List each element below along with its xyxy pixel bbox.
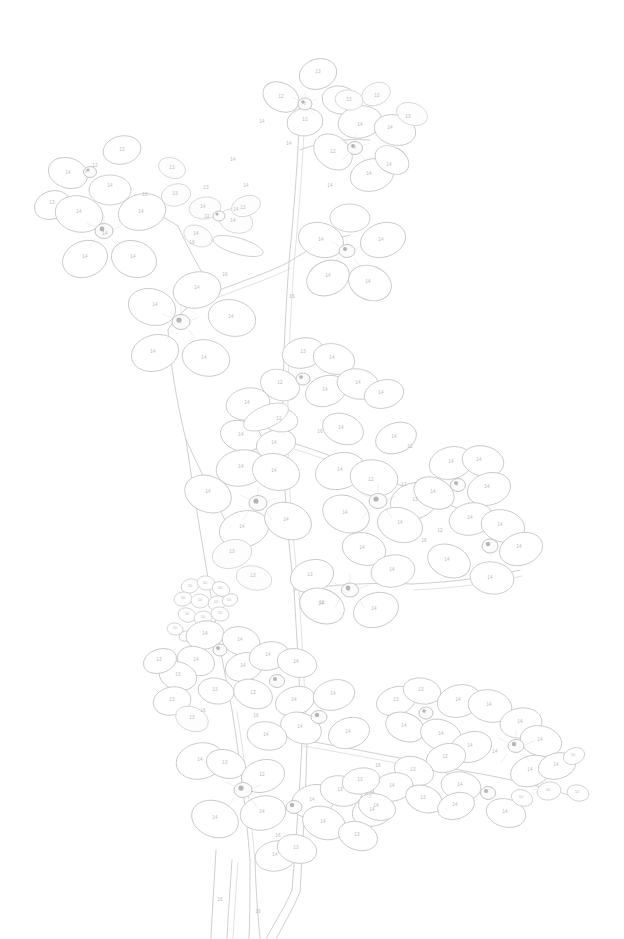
region-number: 14 (283, 517, 289, 522)
region-number: 13 (203, 185, 209, 190)
region-number: 14 (327, 183, 333, 188)
region-number: 10 (181, 595, 186, 600)
region-number: 13 (300, 349, 306, 354)
region-number: 14 (138, 209, 144, 214)
region-number: 16 (222, 272, 228, 277)
region-number: 16 (375, 763, 381, 768)
region-number: 2 (292, 804, 294, 808)
region-number: 13 (307, 572, 313, 577)
region-number: 13 (169, 165, 175, 170)
region-number: 13 (49, 200, 55, 205)
region-number: 2 (456, 483, 458, 487)
region-number: 14 (272, 852, 278, 857)
region-number: 10 (201, 614, 206, 619)
region-number: 14 (244, 400, 250, 405)
region-number: 14 (259, 119, 265, 124)
region-number: 14 (345, 729, 351, 734)
region-number: 14 (397, 520, 403, 525)
region-number: 14 (76, 209, 82, 214)
region-number: 12 (330, 149, 336, 154)
region-number: 2 (102, 228, 104, 232)
region-number: 14 (457, 782, 463, 787)
region-number: 14 (150, 349, 156, 354)
region-number: 14 (259, 809, 265, 814)
region-number: 14 (202, 631, 208, 636)
region-number: 14 (201, 355, 207, 360)
region-number: 2 (488, 543, 490, 547)
region-number: 14 (230, 157, 236, 162)
region-number: 14 (516, 544, 522, 549)
region-number: 13 (418, 687, 424, 692)
region-number: 2 (85, 170, 87, 174)
region-number: 12 (368, 477, 374, 482)
region-number: 14 (322, 387, 328, 392)
region-number: 14 (338, 425, 344, 430)
region-number: 14 (228, 314, 234, 319)
region-number: 13 (315, 69, 321, 74)
region-number: 14 (291, 697, 297, 702)
region-number: 13 (142, 192, 148, 197)
region-number: 14 (293, 659, 299, 664)
region-number: 13 (410, 767, 416, 772)
region-number: 14 (484, 484, 490, 489)
region-number: 16 (319, 600, 325, 605)
region-number: 14 (297, 724, 303, 729)
region-number: 14 (467, 743, 473, 748)
region-number: 14 (102, 231, 108, 236)
region-number: 13 (250, 690, 256, 695)
region-number: 14 (197, 757, 203, 762)
region-number: 10 (571, 752, 576, 757)
region-number: 13 (346, 97, 352, 102)
region-number: 14 (389, 567, 395, 572)
region-number: 14 (391, 434, 397, 439)
region-number: 14 (342, 510, 348, 515)
region-number: 13 (222, 760, 228, 765)
region-number: 14 (452, 802, 458, 807)
region-number: 14 (486, 702, 492, 707)
region-number: 14 (378, 237, 384, 242)
region-number: 14 (243, 183, 249, 188)
region-number: 14 (365, 279, 371, 284)
region-number: 14 (130, 254, 136, 259)
region-number: 14 (430, 489, 436, 494)
region-number: 16 (421, 538, 427, 543)
region-number: 14 (527, 767, 533, 772)
region-number: 14 (107, 183, 113, 188)
region-number: 13 (405, 114, 411, 119)
region-number: 16 (253, 713, 259, 718)
region-number: 14 (65, 170, 71, 175)
region-number: 14 (193, 231, 199, 236)
region-number: 13 (189, 715, 195, 720)
region-number: 2 (317, 714, 319, 718)
region-number: 14 (401, 723, 407, 728)
region-number: 10 (218, 610, 223, 615)
region-number: 14 (286, 141, 292, 146)
coloring-page-canvas: 1312131312214141414141312141421414131413… (0, 0, 624, 939)
region-number: 14 (476, 457, 482, 462)
region-number: 2 (301, 376, 303, 380)
region-number: 14 (238, 432, 244, 437)
region-number: 10 (173, 625, 178, 630)
region-number: 14 (438, 731, 444, 736)
region-number: 14 (378, 390, 384, 395)
region-number: 14 (467, 515, 473, 520)
region-number: 14 (373, 803, 379, 808)
region-number: 14 (517, 719, 523, 724)
region-number: 10 (214, 599, 219, 604)
region-number: 14 (271, 468, 277, 473)
region-number: 13 (212, 687, 218, 692)
region-number: 2 (514, 743, 516, 747)
region-number: 16 (289, 294, 295, 299)
region-number: 13 (229, 549, 235, 554)
region-number: 14 (152, 302, 158, 307)
region-number: 14 (337, 467, 343, 472)
region-number: 14 (230, 218, 236, 223)
region-number: 13 (420, 795, 426, 800)
region-number: 14 (233, 207, 239, 212)
region-number: 10 (575, 789, 580, 794)
region-number: 14 (318, 237, 324, 242)
region-number: 14 (193, 657, 199, 662)
region-number: 10 (188, 583, 193, 588)
region-number: 2 (241, 788, 243, 792)
region-number: 16 (275, 833, 281, 838)
